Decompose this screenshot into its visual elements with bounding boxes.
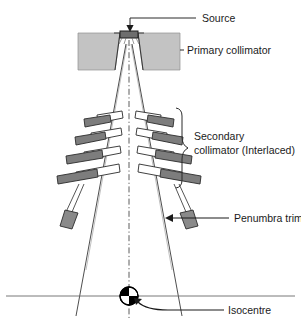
label-source: Source	[202, 12, 235, 24]
source-block	[120, 31, 138, 38]
source-leader-line	[130, 18, 196, 27]
label-secondary-collimator-line2: collimator (Interlaced)	[194, 144, 295, 156]
beam-edge-right	[132, 44, 182, 316]
leaf-bar-left-2	[75, 132, 106, 145]
leaf-bar-right-4	[160, 169, 201, 184]
trimmer-rod-right-inner	[174, 184, 186, 212]
linac-head-diagram: Source Primary collimator Secondary coll…	[0, 0, 301, 328]
leaf-bar-left-4	[57, 169, 98, 184]
annotation-labels: Source Primary collimator Secondary coll…	[187, 12, 301, 316]
trimmer-rod-left-outer	[66, 184, 79, 212]
primary-collimator-left-block	[78, 33, 120, 70]
source-hatch-3	[132, 38, 134, 44]
penumbra-trimmers-arrowhead	[165, 214, 173, 222]
beam-edge-left	[76, 44, 126, 316]
label-secondary-collimator-line1: Secondary	[194, 130, 245, 142]
label-isocentre: Isocentre	[228, 304, 271, 316]
label-primary-collimator: Primary collimator	[187, 44, 272, 56]
penumbra-trimmer-block-right	[180, 210, 198, 229]
primary-collimator-right-block	[138, 33, 180, 70]
leaf-bar-left-1	[84, 115, 111, 127]
label-penumbra-trimmers: Penumbra trimmers	[234, 212, 301, 224]
penumbra-trimmer-block-left	[60, 210, 78, 229]
trimmer-rod-right-outer	[179, 184, 192, 212]
beam-geometry	[6, 40, 295, 318]
leaf-bar-right-2	[152, 132, 183, 145]
trimmer-rod-left-inner	[72, 184, 84, 212]
source-hatch-2	[124, 38, 126, 44]
diagram-canvas: Source Primary collimator Secondary coll…	[0, 0, 301, 328]
leaf-bar-right-1	[147, 115, 174, 127]
